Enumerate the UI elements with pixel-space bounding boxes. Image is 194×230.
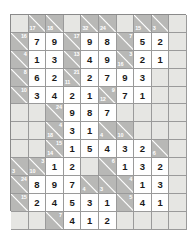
entry-value: 2 — [152, 33, 169, 50]
entry-value: 7 — [99, 104, 116, 121]
clue-down-value: 10 — [118, 132, 124, 139]
entry-value: 4 — [134, 194, 151, 211]
kakuro-entry-cell[interactable]: 1 — [29, 51, 47, 69]
kakuro-entry-cell[interactable]: 2 — [152, 33, 170, 51]
kakuro-entry-cell[interactable]: 1 — [81, 122, 99, 140]
kakuro-entry-cell[interactable]: 7 — [117, 87, 135, 105]
kakuro-entry-cell[interactable]: 4 — [134, 194, 152, 212]
kakuro-entry-cell[interactable]: 1 — [81, 212, 99, 224]
kakuro-entry-cell[interactable]: 7 — [99, 104, 117, 122]
kakuro-entry-cell[interactable]: 3 — [46, 51, 64, 69]
kakuro-clue-cell: 912 — [99, 87, 117, 105]
entry-value: 1 — [99, 194, 116, 211]
kakuro-entry-cell[interactable]: 3 — [29, 87, 47, 105]
entry-value: 1 — [64, 140, 81, 157]
kakuro-entry-cell[interactable]: 2 — [134, 140, 152, 158]
kakuro-entry-cell[interactable]: 9 — [99, 51, 117, 69]
kakuro-entry-cell[interactable]: 1 — [134, 87, 152, 105]
kakuro-entry-cell[interactable]: 5 — [64, 194, 82, 212]
clue-across-value: 10 — [21, 87, 27, 94]
kakuro-blank-cell — [117, 212, 135, 224]
kakuro-entry-cell[interactable]: 1 — [152, 51, 170, 69]
kakuro-entry-cell[interactable]: 3 — [134, 69, 152, 87]
kakuro-clue-cell: 24 — [99, 15, 117, 33]
kakuro-entry-cell[interactable]: 9 — [117, 69, 135, 87]
kakuro-entry-cell[interactable]: 5 — [134, 33, 152, 51]
kakuro-entry-cell[interactable]: 8 — [29, 176, 47, 194]
kakuro-entry-cell[interactable]: 2 — [64, 87, 82, 105]
kakuro-entry-cell[interactable]: 4 — [64, 212, 82, 224]
kakuro-entry-cell[interactable]: 2 — [46, 69, 64, 87]
kakuro-entry-cell[interactable]: 7 — [99, 69, 117, 87]
kakuro-blank-cell — [29, 212, 47, 224]
entry-value: 3 — [117, 140, 134, 157]
clue-down-value: 3 — [12, 168, 15, 175]
kakuro-entry-cell[interactable]: 9 — [46, 33, 64, 51]
kakuro-blank-cell — [169, 122, 187, 140]
kakuro-entry-cell[interactable]: 2 — [29, 194, 47, 212]
kakuro-blank-cell — [29, 140, 47, 158]
kakuro-clue-cell: 6 — [99, 158, 117, 176]
clue-across-value: 5 — [129, 194, 132, 201]
kakuro-clue-cell: 310 — [29, 158, 47, 176]
kakuro-clue-cell: 13 — [64, 51, 82, 69]
kakuro-entry-cell[interactable]: 3 — [134, 158, 152, 176]
kakuro-entry-cell[interactable]: 4 — [81, 51, 99, 69]
kakuro-entry-cell[interactable]: 9 — [81, 33, 99, 51]
kakuro-entry-cell[interactable]: 2 — [99, 212, 117, 224]
entry-value: 4 — [46, 87, 63, 104]
entry-value: 4 — [46, 194, 63, 211]
kakuro-entry-cell[interactable]: 2 — [81, 69, 99, 87]
kakuro-entry-cell[interactable]: 8 — [99, 33, 117, 51]
clue-down-value: 3 — [100, 186, 103, 193]
kakuro-entry-cell[interactable]: 1 — [117, 158, 135, 176]
clue-across-value: 24 — [21, 176, 27, 183]
kakuro-blank-cell — [152, 87, 170, 105]
kakuro-blank-cell — [152, 104, 170, 122]
kakuro-entry-cell[interactable]: 4 — [46, 87, 64, 105]
kakuro-entry-cell[interactable]: 1 — [64, 140, 82, 158]
kakuro-entry-cell[interactable]: 7 — [29, 33, 47, 51]
kakuro-entry-cell[interactable]: 3 — [64, 122, 82, 140]
kakuro-entry-cell[interactable]: 8 — [81, 104, 99, 122]
kakuro-clue-cell: 7 — [46, 212, 64, 224]
kakuro-entry-cell[interactable]: 4 — [99, 140, 117, 158]
kakuro-entry-cell[interactable]: 2 — [134, 51, 152, 69]
clue-across-value: 21 — [74, 69, 80, 76]
kakuro-clue-cell: 5 — [117, 194, 135, 212]
kakuro-blank-cell — [134, 104, 152, 122]
entry-value: 1 — [81, 87, 98, 104]
kakuro-clue-cell: 3 — [152, 15, 170, 33]
clue-across-value: 4 — [59, 122, 62, 129]
entry-value: 3 — [81, 194, 98, 211]
entry-value: 3 — [134, 158, 151, 175]
kakuro-entry-cell[interactable]: 2 — [64, 158, 82, 176]
entry-value: 5 — [81, 140, 98, 157]
kakuro-entry-cell[interactable]: 9 — [46, 176, 64, 194]
kakuro-entry-cell[interactable]: 6 — [29, 69, 47, 87]
entry-value: 1 — [46, 158, 63, 175]
kakuro-entry-cell[interactable]: 1 — [46, 158, 64, 176]
clue-across-value: 7 — [129, 33, 132, 40]
kakuro-entry-cell[interactable]: 3 — [117, 140, 135, 158]
clue-across-value: 17 — [74, 33, 80, 40]
kakuro-entry-cell[interactable]: 4 — [46, 194, 64, 212]
kakuro-entry-cell[interactable]: 1 — [134, 176, 152, 194]
kakuro-entry-cell[interactable]: 3 — [81, 194, 99, 212]
entry-value: 2 — [64, 87, 81, 104]
kakuro-clue-cell: 24 — [46, 104, 64, 122]
entry-value: 9 — [81, 33, 98, 50]
kakuro-entry-cell[interactable]: 9 — [64, 104, 82, 122]
kakuro-entry-cell[interactable]: 1 — [152, 194, 170, 212]
kakuro-entry-cell[interactable]: 2 — [152, 158, 170, 176]
kakuro-clue-cell: 15 — [11, 194, 29, 212]
kakuro-entry-cell[interactable]: 3 — [152, 176, 170, 194]
clue-across-value: 24 — [56, 104, 62, 111]
kakuro-clue-cell: 4 — [117, 176, 135, 194]
kakuro-blank-cell — [152, 122, 170, 140]
kakuro-entry-cell[interactable]: 5 — [81, 140, 99, 158]
kakuro-entry-cell[interactable]: 7 — [64, 176, 82, 194]
kakuro-entry-cell[interactable]: 1 — [99, 194, 117, 212]
kakuro-entry-cell[interactable]: 1 — [81, 87, 99, 105]
clue-down-value: 12 — [100, 96, 106, 103]
